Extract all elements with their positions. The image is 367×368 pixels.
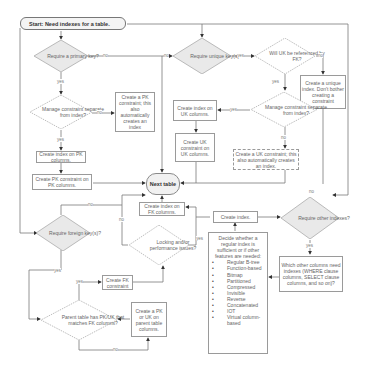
decision-uk-referenced-by-fk: Will UK be referenced by FK? <box>255 38 315 74</box>
decision-require-other-indexes: Require other indexes? <box>281 197 339 239</box>
edge-label-no: no <box>97 110 102 115</box>
edge-label-no: no <box>88 202 93 207</box>
action-create-uk-constraint: Create UK constraint on UK columns. <box>175 133 215 162</box>
edge-label-no: no <box>281 135 286 140</box>
decision-manage-uk-separate: Manage constraint separate from index? <box>251 92 317 127</box>
edge-label-yes: yes <box>237 53 244 58</box>
decide-index-features-box: Decide whether a regular index is suffic… <box>208 232 268 354</box>
action-create-index: Create index. <box>213 211 258 223</box>
action-create-index-pk-columns: Create index on PK columns. <box>36 151 86 163</box>
index-feature-list: Regular B-tree Function-based Bitmap Par… <box>211 259 265 326</box>
decision-require-pk: Require a primary key? <box>34 40 88 72</box>
edge-label-no: no <box>119 217 124 222</box>
edge-label-yes: yes <box>306 243 313 248</box>
edge-label-no: no <box>113 347 118 352</box>
edge-label-yes: yes <box>230 107 237 112</box>
edge-label-yes: yes <box>76 279 83 284</box>
edge-label-yes: yes <box>54 268 61 273</box>
edge-label-no: no <box>318 53 323 58</box>
action-create-fk-constraint: Create FK constraint <box>102 275 133 290</box>
list-item: Virtual column-based <box>211 314 265 326</box>
edge-label-no: no <box>309 189 314 194</box>
edge-label-yes: yes <box>196 236 203 241</box>
decision-locking-performance: Locking and/or performance issues? <box>129 225 189 265</box>
edge-label-yes: yes <box>57 79 64 84</box>
decision-parent-has-pk-uk: Parent table has PK/UK that matches FK c… <box>41 300 117 340</box>
edge-label-no: no <box>103 53 108 58</box>
action-create-pk-constraint-pk-columns: Create PK constraint on PK columns. <box>32 174 92 190</box>
action-create-uk-constraint-auto: Create a UK constraint; this also automa… <box>233 149 299 170</box>
action-create-pk-constraint-auto: Create a PK constraint; this also automa… <box>115 92 155 132</box>
decision-manage-pk-separate: Manage constraint separate from index? <box>30 95 92 129</box>
edge-label-yes: yes <box>272 79 279 84</box>
decide-heading: Decide whether a regular index is suffic… <box>211 235 265 259</box>
decision-require-fk: Require foreign key(s)? <box>36 215 90 251</box>
terminal-next-table: Next table <box>146 173 180 195</box>
action-create-pk-uk-parent: Create a PK or UK on parent table column… <box>131 302 167 337</box>
edge-label-no: no <box>164 53 169 58</box>
edge-label-yes: yes <box>57 137 64 142</box>
decision-require-uk: Require unique key(s)? <box>173 38 231 74</box>
action-which-other-columns: Which other columns need indexes (WHERE … <box>279 256 343 292</box>
action-create-index-fk-columns: Create index on FK columns. <box>139 202 185 216</box>
start-node: Start: Need indexes for a table. <box>20 17 126 30</box>
action-create-index-uk-columns: Create index on UK columns. <box>173 100 217 121</box>
